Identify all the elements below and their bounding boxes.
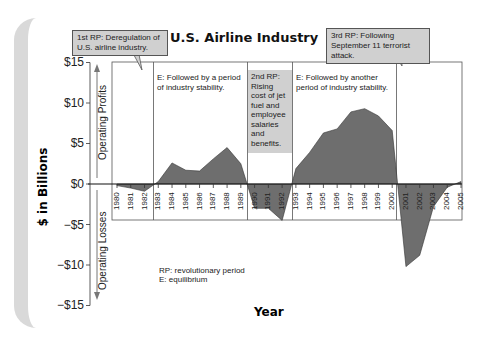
x-tick-label: 1984 (167, 192, 176, 210)
y-tick: $0 (40, 177, 84, 191)
y-tick: $5 (40, 136, 84, 150)
x-tick-label: 1993 (291, 192, 300, 210)
x-tick-label: 1999 (373, 192, 382, 210)
x-tick-label: 1980 (112, 192, 121, 210)
x-tick-label: 1994 (305, 192, 314, 210)
legend-e: E: equilibrium (159, 275, 245, 284)
x-tick-label: 1997 (346, 192, 355, 210)
callout-rp3: 3rd RP: Following September 11 terrorist… (326, 28, 430, 64)
equilibrium-note-1: E: Followed by a period of industry stab… (157, 73, 247, 93)
x-tick-label: 1991 (263, 192, 272, 210)
y-tick: $15 (40, 55, 84, 69)
x-tick-label: 1996 (332, 192, 341, 210)
x-tick-label: 2001 (401, 192, 410, 210)
x-tick-label: 2003 (428, 192, 437, 210)
x-tick-label: 1987 (208, 192, 217, 210)
x-tick-label: 1998 (360, 192, 369, 210)
chart-title: U.S. Airline Industry (170, 30, 318, 45)
legend-rp: RP: revolutionary period (159, 266, 245, 275)
x-tick-label: 1985 (181, 192, 190, 210)
x-tick-label: 1982 (140, 192, 149, 210)
x-tick-label: 1983 (153, 192, 162, 210)
equilibrium-note-2: E: Followed by another period of industr… (296, 73, 396, 93)
callout-rp1: 1st RP: Deregulation of U.S. airline ind… (72, 30, 168, 56)
x-tick-label: 2004 (442, 192, 451, 210)
y-tick: $10 (40, 96, 84, 110)
x-tick-label: 1992 (277, 192, 286, 210)
x-tick-label: 1990 (250, 192, 259, 210)
x-tick-label: 1988 (222, 192, 231, 210)
x-axis-label: Year (254, 305, 284, 319)
y-tick: −$15 (40, 298, 84, 312)
legend: RP: revolutionary period E: equilibrium (159, 266, 245, 284)
x-tick-label: 1995 (318, 192, 327, 210)
x-tick-label: 2000 (387, 192, 396, 210)
x-tick-label: 2005 (456, 192, 465, 210)
operating-losses-label: Operating Losses (97, 212, 108, 290)
x-tick-label: 1986 (195, 192, 204, 210)
y-tick: −$5 (40, 218, 84, 232)
x-tick-label: 2002 (415, 192, 424, 210)
x-tick-label: 1989 (236, 192, 245, 210)
y-tick: −$10 (40, 258, 84, 272)
operating-profits-label: Operating Profits (97, 85, 108, 160)
callout-rp2: 2nd RP: Rising cost of jet fuel and empl… (248, 70, 292, 153)
x-tick-label: 1981 (126, 192, 135, 210)
